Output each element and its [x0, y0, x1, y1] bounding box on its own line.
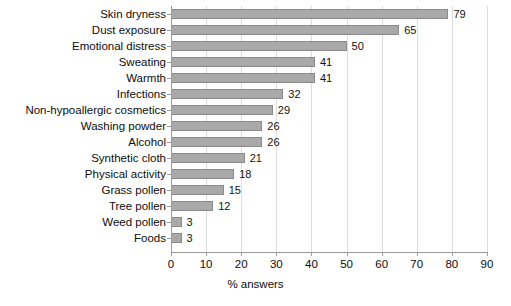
bar [171, 9, 448, 19]
bar-value-label: 41 [320, 70, 332, 86]
bar [171, 153, 245, 163]
x-axis-tick [311, 252, 312, 256]
bar-value-label: 26 [267, 134, 279, 150]
x-axis-title: % answers [0, 278, 511, 290]
bar [171, 41, 347, 51]
bar-rows: 7965504141322926262118151233 [171, 6, 487, 252]
bar-row: 32 [171, 86, 487, 102]
plot-area: 7965504141322926262118151233 [171, 6, 487, 252]
bar-row: 29 [171, 102, 487, 118]
x-axis-tick-label: 40 [305, 258, 318, 270]
bar-chart: 7965504141322926262118151233 Skin drynes… [0, 0, 511, 306]
bar [171, 89, 283, 99]
x-axis-tick-label: 80 [445, 258, 458, 270]
x-axis-tick [276, 252, 277, 256]
x-axis-tick-label: 0 [168, 258, 174, 270]
category-label: Infections [0, 86, 166, 102]
category-label: Tree pollen [0, 198, 166, 214]
category-label: Non-hypoallergic cosmetics [0, 102, 166, 118]
bar-value-label: 3 [187, 230, 193, 246]
x-axis-tick [206, 252, 207, 256]
category-label: Warmth [0, 70, 166, 86]
x-axis-tick [171, 252, 172, 256]
category-label: Physical activity [0, 166, 166, 182]
bar-value-label: 26 [267, 118, 279, 134]
category-label: Skin dryness [0, 6, 166, 22]
bar-row: 21 [171, 150, 487, 166]
bar-value-label: 12 [218, 198, 230, 214]
category-label: Weed pollen [0, 214, 166, 230]
bar [171, 137, 262, 147]
x-axis-tick [487, 252, 488, 256]
bar [171, 121, 262, 131]
bar-row: 3 [171, 214, 487, 230]
category-label: Foods [0, 230, 166, 246]
bar-value-label: 79 [453, 6, 465, 22]
y-axis-category-labels: Skin drynessDust exposureEmotional distr… [0, 6, 166, 252]
x-axis-tick [452, 252, 453, 256]
x-axis-tick [241, 252, 242, 256]
category-label: Emotional distress [0, 38, 166, 54]
x-axis-tick-label: 10 [200, 258, 213, 270]
bar-row: 3 [171, 230, 487, 246]
bar-row: 65 [171, 22, 487, 38]
x-axis-tick [347, 252, 348, 256]
bar-value-label: 32 [288, 86, 300, 102]
bar-value-label: 65 [404, 22, 416, 38]
bar-value-label: 21 [250, 150, 262, 166]
bar-row: 50 [171, 38, 487, 54]
bar-row: 26 [171, 134, 487, 150]
bar [171, 185, 224, 195]
bar-value-label: 18 [239, 166, 251, 182]
category-label: Dust exposure [0, 22, 166, 38]
bar [171, 105, 273, 115]
x-axis-tick-label: 30 [270, 258, 283, 270]
bar-value-label: 3 [187, 214, 193, 230]
y-axis-line [171, 6, 172, 252]
bar [171, 201, 213, 211]
bar [171, 25, 399, 35]
bar-row: 26 [171, 118, 487, 134]
category-label: Grass pollen [0, 182, 166, 198]
x-axis-tick [382, 252, 383, 256]
x-axis-line [171, 252, 487, 253]
gridline [487, 6, 488, 252]
bar-value-label: 29 [278, 102, 290, 118]
bar [171, 57, 315, 67]
bar-value-label: 15 [229, 182, 241, 198]
category-label: Sweating [0, 54, 166, 70]
bar-row: 41 [171, 54, 487, 70]
bar-row: 15 [171, 182, 487, 198]
bar-value-label: 50 [352, 38, 364, 54]
x-axis-tick-label: 90 [481, 258, 494, 270]
bar-row: 79 [171, 6, 487, 22]
category-label: Synthetic cloth [0, 150, 166, 166]
x-axis-tick-label: 60 [375, 258, 388, 270]
x-axis-tick-label: 20 [235, 258, 248, 270]
x-axis-tick [417, 252, 418, 256]
x-axis-tick-label: 50 [340, 258, 353, 270]
bar-value-label: 41 [320, 54, 332, 70]
bar [171, 217, 182, 227]
bar-row: 18 [171, 166, 487, 182]
category-label: Alcohol [0, 134, 166, 150]
bar [171, 73, 315, 83]
category-label: Washing powder [0, 118, 166, 134]
bar [171, 233, 182, 243]
bar-row: 12 [171, 198, 487, 214]
x-axis-tick-label: 70 [410, 258, 423, 270]
bar-row: 41 [171, 70, 487, 86]
bar [171, 169, 234, 179]
